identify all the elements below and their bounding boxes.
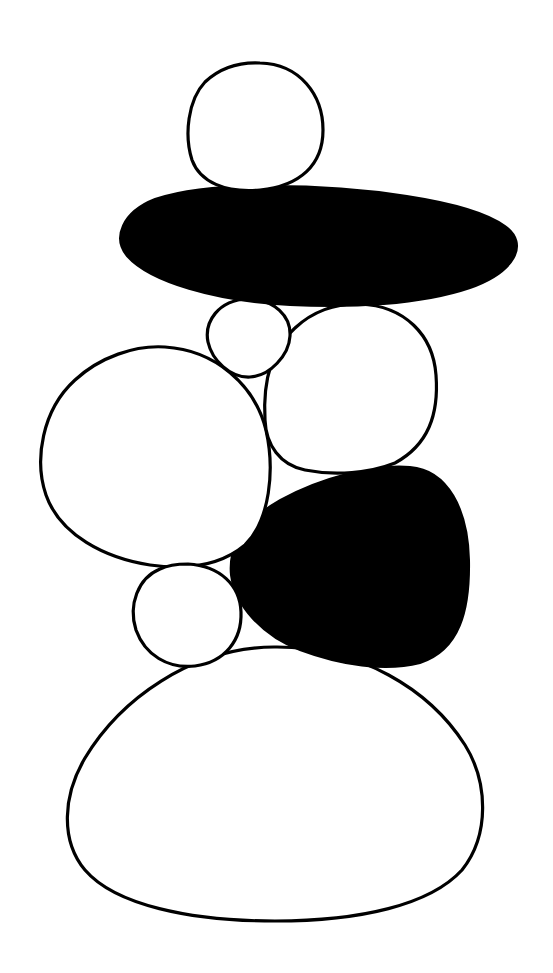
stacked-stones-illustration bbox=[0, 0, 553, 973]
left-large-stone bbox=[41, 347, 270, 567]
base-dome-stone bbox=[67, 647, 482, 921]
flat-black-stone bbox=[120, 186, 517, 306]
top-stone bbox=[188, 63, 323, 191]
small-lower-stone bbox=[133, 564, 241, 666]
